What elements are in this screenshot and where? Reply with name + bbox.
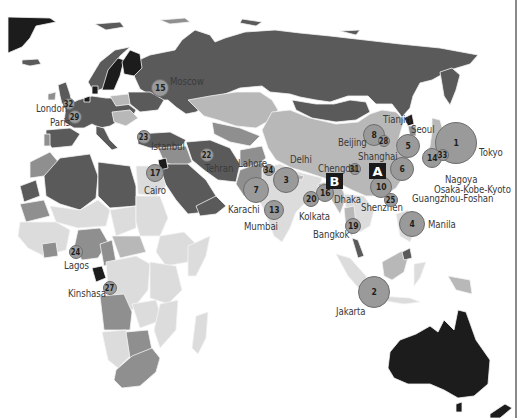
city-label: Osaka-Kobe-Kyoto — [434, 183, 511, 195]
region-iceland — [22, 59, 41, 66]
city-bubble: 20 — [303, 191, 319, 207]
city-label: Delhi — [290, 153, 312, 165]
city-rank: 14 — [427, 153, 438, 163]
city-bubble: 25 — [384, 193, 398, 207]
city-rank: 20 — [306, 194, 317, 204]
city-label: Jakarta — [336, 305, 366, 317]
city-label: Dhaka — [334, 193, 361, 205]
city-bubble: 33 — [437, 149, 449, 161]
city-bubble: 13 — [264, 200, 284, 220]
city-rank: 2 — [371, 287, 376, 297]
region-western-sahara — [20, 180, 40, 202]
city-bubble: 7 — [243, 177, 269, 203]
region-new-guinea — [448, 276, 472, 294]
region-tasmania — [456, 402, 462, 412]
city-label: Paris — [50, 116, 70, 128]
region-kazakhstan — [188, 92, 278, 128]
city-rank: 5 — [405, 141, 410, 151]
city-rank: 25 — [386, 196, 395, 205]
region-ghana-cote — [42, 242, 58, 258]
region-denmark — [92, 86, 98, 94]
city-rank: 1 — [453, 138, 458, 148]
city-rank: 7 — [253, 185, 258, 195]
city-label: Istanbul — [151, 140, 185, 152]
city-rank: 16 — [320, 188, 331, 198]
city-label: Cairo — [144, 184, 166, 196]
region-sudan — [136, 196, 168, 236]
city-rank: 33 — [438, 151, 447, 160]
city-bubble: 28 — [378, 135, 390, 147]
city-label: Moscow — [170, 75, 204, 87]
city-rank: 6 — [399, 164, 404, 174]
city-label: Shanghai — [358, 150, 398, 162]
city-rank: 15 — [155, 83, 166, 93]
city-rank: 23 — [139, 133, 148, 142]
city-rank: 28 — [379, 137, 388, 146]
city-label: Karachi — [228, 203, 260, 215]
city-rank: 10 — [376, 182, 387, 192]
region-east-africa — [150, 262, 182, 304]
region-sulawesi — [414, 262, 426, 286]
map-marker-b: B — [326, 173, 343, 189]
city-bubble: 17 — [146, 164, 164, 182]
region-australia — [388, 310, 490, 398]
city-bubble: 5 — [396, 134, 420, 158]
map-marker-a: A — [369, 163, 386, 179]
city-rank: 3 — [283, 175, 288, 185]
city-bubble: 24 — [69, 245, 83, 259]
city-label: Kolkata — [299, 210, 330, 222]
city-label: Tianjin — [383, 113, 411, 125]
city-label: Manila — [428, 218, 456, 230]
city-rank: 29 — [70, 113, 79, 122]
region-gabon — [92, 266, 106, 282]
city-bubble: 15 — [151, 79, 169, 97]
city-rank: 13 — [269, 205, 280, 215]
region-sabah — [402, 248, 412, 260]
region-chad — [110, 206, 136, 236]
city-label: Seoul — [411, 123, 434, 135]
city-label: Tehran — [205, 162, 233, 174]
city-bubble: 29 — [68, 110, 82, 124]
city-bubble: 22 — [200, 148, 214, 162]
region-car — [112, 236, 146, 258]
city-label: London — [36, 102, 67, 114]
region-libya — [98, 162, 136, 208]
city-bubble: 23 — [137, 130, 151, 144]
city-rank: 24 — [71, 248, 80, 257]
region-netherlands — [84, 96, 90, 102]
city-label: Mumbai — [244, 220, 278, 232]
city-bubble: 3 — [273, 167, 299, 193]
city-label: Lahore — [238, 157, 267, 169]
region-greenland — [8, 17, 56, 53]
region-portugal — [44, 134, 50, 146]
city-rank: 27 — [105, 284, 114, 293]
region-italy — [96, 126, 118, 150]
city-label: Kinshasa — [68, 287, 106, 299]
city-label: Bangkok — [313, 228, 349, 240]
region-new-zealand — [490, 404, 512, 418]
city-bubble: 2 — [358, 276, 390, 308]
city-label: Lagos — [64, 259, 89, 271]
city-label: Tokyo — [479, 146, 503, 158]
region-spain — [46, 128, 80, 148]
city-rank: 4 — [409, 219, 414, 229]
city-rank: 22 — [202, 151, 211, 160]
region-madagascar — [192, 312, 208, 354]
city-bubble: 4 — [399, 211, 425, 237]
city-rank: 17 — [150, 168, 161, 178]
region-malaysia — [352, 238, 364, 258]
region-mauritania — [20, 200, 50, 222]
city-label: Beijing — [338, 136, 367, 148]
region-ireland — [48, 92, 56, 100]
city-rank: 8 — [371, 130, 376, 140]
